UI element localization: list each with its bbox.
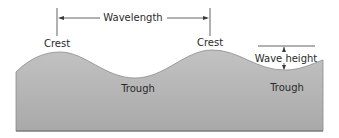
crest-label-left: Crest (44, 38, 70, 49)
wave-diagram: Wavelength Crest Crest Trough Trough Wav… (0, 0, 339, 138)
trough-label-left: Trough (120, 83, 155, 94)
crest-label-right: Crest (197, 37, 223, 48)
wave-height-label: Wave height (255, 53, 318, 64)
wavelength-label: Wavelength (103, 12, 162, 23)
trough-label-right: Trough (269, 82, 304, 93)
